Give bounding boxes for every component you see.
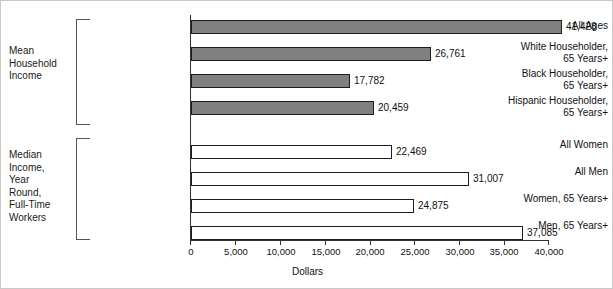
group-title-median-income: Median Income, Year Round, Full-Time Wor… [9, 149, 73, 224]
x-tick-25000 [414, 240, 415, 245]
bar-chart: Mean Household Income Median Income, Yea… [0, 0, 613, 289]
x-tick-30000 [459, 240, 460, 245]
bar-black-householder [191, 74, 350, 88]
x-tick-label-40000: 40,000 [534, 246, 563, 257]
x-tick-label-30000: 30,000 [445, 246, 474, 257]
x-tick-0 [190, 240, 191, 245]
x-tick-5000 [235, 240, 236, 245]
bar-value-hispanic-householder: 20,459 [378, 101, 409, 115]
x-tick-label-0: 0 [188, 246, 193, 257]
bar-value-all-ages: 41,428 [566, 20, 597, 34]
bar-all-men [191, 172, 469, 186]
x-tick-label-15000: 15,000 [311, 246, 340, 257]
x-tick-label-25000: 25,000 [400, 246, 429, 257]
bar-value-black-householder: 17,782 [354, 74, 385, 88]
plot-area: 0 5,000 10,000 15,000 20,000 25,000 30,0… [191, 15, 549, 240]
bar-value-all-men: 31,007 [473, 172, 504, 186]
bar-value-all-women: 22,469 [396, 145, 427, 159]
bar-white-householder [191, 47, 431, 61]
bar-value-white-householder: 26,761 [435, 47, 466, 61]
x-tick-10000 [280, 240, 281, 245]
bar-women-65-plus [191, 199, 414, 213]
group-bracket-median-income [76, 138, 90, 240]
bar-value-women-65-plus: 24,875 [418, 199, 449, 213]
group-title-mean-household-income: Mean Household Income [9, 45, 73, 83]
x-tick-20000 [370, 240, 371, 245]
bar-all-women [191, 145, 392, 159]
x-tick-40000 [548, 240, 549, 245]
x-tick-35000 [504, 240, 505, 245]
bar-hispanic-householder [191, 101, 374, 115]
x-tick-15000 [325, 240, 326, 245]
x-axis-title: Dollars [1, 266, 613, 277]
bar-value-men-65-plus: 37,085 [527, 226, 558, 240]
x-tick-label-5000: 5,000 [224, 246, 248, 257]
x-tick-label-20000: 20,000 [355, 246, 384, 257]
x-tick-label-35000: 35,000 [489, 246, 518, 257]
bar-all-ages [191, 20, 562, 34]
x-tick-label-10000: 10,000 [266, 246, 295, 257]
group-bracket-mean-household-income [76, 19, 90, 125]
bar-men-65-plus [191, 226, 523, 240]
